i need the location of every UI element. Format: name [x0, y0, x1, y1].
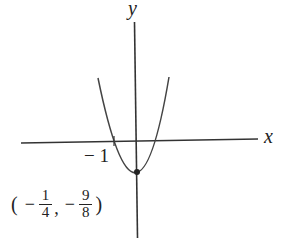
y-axis	[135, 22, 138, 238]
x-intercept-label: − 1	[84, 146, 109, 165]
vertex-point	[134, 169, 140, 175]
vertex-close-paren: )	[92, 193, 105, 216]
vertex-x-numerator: 1	[39, 188, 53, 205]
vertex-comma: ,	[52, 198, 61, 219]
vertex-x-sign: −	[21, 194, 39, 215]
vertex-y-sign: −	[61, 194, 79, 215]
vertex-y-numerator: 9	[79, 188, 93, 205]
vertex-x-denominator: 4	[39, 205, 53, 221]
x-axis	[21, 139, 258, 143]
vertex-open-paren: (	[8, 193, 21, 216]
vertex-label: ( − 1 4 , − 9 8 )	[8, 188, 105, 221]
vertex-y-fraction: 9 8	[79, 188, 93, 221]
x-axis-label: x	[264, 126, 273, 146]
vertex-y-denominator: 8	[79, 205, 93, 221]
vertex-x-fraction: 1 4	[39, 188, 53, 221]
y-axis-label: y	[128, 0, 137, 18]
